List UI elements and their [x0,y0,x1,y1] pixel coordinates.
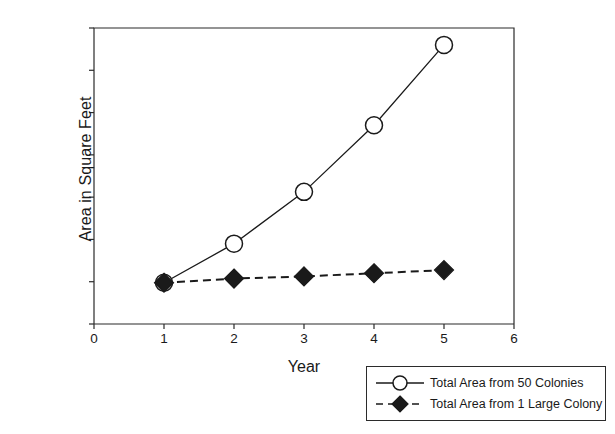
data-point-open-circle [296,183,313,200]
data-point-filled-diamond [155,273,174,292]
legend-label-series2: Total Area from 1 Large Colony [426,397,602,411]
x-axis-tick-label: 1 [144,332,184,346]
legend-entry-series2: Total Area from 1 Large Colony [374,393,598,414]
x-axis-tick-label: 6 [494,332,534,346]
x-axis-tick-label: 0 [74,332,114,346]
data-point-open-circle [436,36,453,53]
data-point-open-circle [226,235,243,252]
x-axis-tick-label: 5 [424,332,464,346]
data-point-filled-diamond [225,269,244,288]
chart-legend: Total Area from 50 Colonies Total Area f… [366,366,606,421]
legend-key-filled-diamond-icon [374,394,426,414]
legend-key-open-circle-icon [374,373,426,393]
y-axis-tick-labels: 02000400060008000100001200014000 [0,0,88,434]
legend-entry-series1: Total Area from 50 Colonies [374,372,598,393]
series-line-1 [164,45,444,283]
x-axis-tick-label: 3 [284,332,324,346]
chart-figure: Area in Square Feet 02000400060008000100… [0,0,615,434]
data-point-filled-diamond [435,261,454,280]
x-axis-tick-label: 2 [214,332,254,346]
data-point-filled-diamond [365,264,384,283]
x-axis-tick-label: 4 [354,332,394,346]
data-point-open-circle [366,117,383,134]
data-point-filled-diamond [295,267,314,286]
legend-label-series1: Total Area from 50 Colonies [426,376,584,390]
